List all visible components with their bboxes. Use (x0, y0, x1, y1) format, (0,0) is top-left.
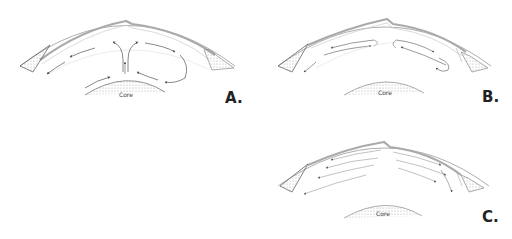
panel-letter: A. (225, 89, 243, 107)
left-continent (20, 45, 50, 72)
core-label: Core (119, 91, 133, 98)
panel-a: Core A. (0, 0, 256, 120)
panel-b: Core B. (256, 0, 512, 120)
panel-letter: C. (482, 208, 499, 226)
panel-b-drawing (256, 0, 512, 120)
core-label: Core (376, 210, 390, 217)
panel-letter: B. (482, 88, 499, 106)
panel-a-drawing (0, 0, 256, 120)
panel-c: Core C. (256, 120, 512, 239)
panel-c-drawing (256, 120, 512, 239)
right-continent (204, 50, 234, 70)
core-label: Core (378, 89, 392, 96)
